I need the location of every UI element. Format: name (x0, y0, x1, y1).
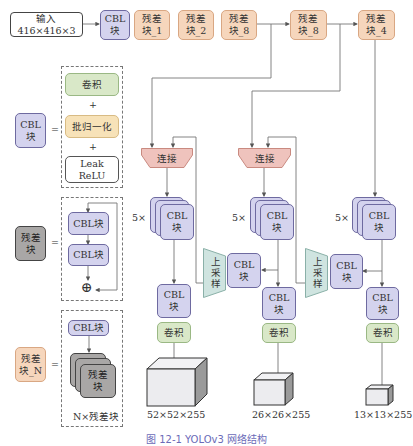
output-shape-1: 52×52×255 (147, 409, 205, 420)
head-1-cbl: CBL 块 (157, 284, 191, 318)
residual-block-4: 残差 块_4 (358, 10, 395, 40)
legend-residual-equals: = (51, 237, 59, 248)
legend-plus-2: + (89, 141, 97, 152)
legend-residual-cbl-1: CBL块 (68, 212, 109, 235)
cbl-stack-1-front: CBL 块 (160, 204, 194, 240)
head-2-conv: 卷积 (262, 323, 296, 343)
residual-block-1: 残差 块_1 (134, 10, 170, 40)
legend-residual-cbl-2: CBL块 (68, 244, 109, 266)
repeat-label-2: 5× (232, 212, 246, 223)
legend-residual-n-equals: = (51, 359, 59, 370)
legend-cbl-badge: CBL 块 (15, 113, 46, 148)
residual-block-8a: 残差 块_8 (221, 10, 257, 40)
legend-residual-n-label: N×残差块 (73, 409, 119, 423)
legend-cbl-equals: = (51, 124, 59, 135)
upsample-node-1: 上采样 (203, 248, 226, 298)
head-2-cbl: CBL 块 (262, 287, 296, 320)
cbl-stack-2-front: CBL 块 (260, 204, 294, 240)
concat-node-2: 连接 (238, 148, 291, 168)
legend-plus-1: + (89, 99, 97, 110)
legend-batchnorm: 批归一化 (65, 115, 119, 138)
concat-node-1: 连接 (141, 148, 193, 168)
repeat-label-3: 5× (335, 212, 349, 223)
legend-leaky-relu: Leak ReLU (65, 156, 119, 183)
head-1-conv: 卷积 (157, 322, 191, 343)
residual-block-2: 残差 块_2 (178, 10, 214, 40)
repeat-label-1: 5× (132, 212, 146, 223)
legend-conv: 卷积 (65, 73, 119, 96)
upsample-2-cbl: CBL 块 (330, 254, 363, 289)
output-shape-2: 26×26×255 (252, 409, 310, 420)
output-cube-2 (253, 372, 295, 406)
figure-caption: 图 12-1 YOLOv3 网络结构 (0, 431, 413, 446)
cbl-stack-3-front: CBL 块 (362, 204, 396, 240)
head-3-conv: 卷积 (366, 323, 399, 343)
head-3-cbl: CBL 块 (366, 287, 399, 320)
add-icon: ⊕ (81, 280, 93, 294)
output-shape-3: 13×13×255 (354, 409, 412, 420)
backbone-cbl-block: CBL 块 (100, 10, 130, 40)
legend-residual-stack-front: 残差 块 (80, 364, 116, 398)
upsample-1-cbl: CBL 块 (227, 253, 261, 288)
legend-residual-n-badge: 残差 块_N (15, 347, 46, 382)
output-cube-1 (146, 357, 208, 407)
residual-block-8b: 残差 块_8 (290, 10, 327, 40)
legend-residual-badge: 残差 块 (15, 226, 46, 261)
output-cube-3 (365, 384, 395, 406)
input-box: 输入 416×416×3 (10, 12, 83, 37)
upsample-node-2: 上采样 (305, 248, 328, 298)
legend-residual-n-cbl: CBL块 (68, 320, 109, 336)
